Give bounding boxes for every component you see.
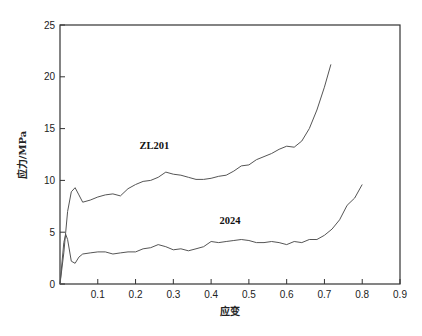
x-tick-label: 0.6 [280, 289, 294, 300]
y-tick-label: 25 [44, 20, 56, 31]
y-tick-label: 0 [49, 279, 55, 290]
x-axis-title: 应变 [220, 305, 240, 317]
x-tick-label: 0.7 [317, 289, 331, 300]
series-labels: ZL2012024 [140, 140, 242, 226]
x-tick-label: 0.4 [204, 289, 218, 300]
y-axis-title: 应力/MPa [16, 130, 28, 179]
x-tick-label: 0.9 [393, 289, 407, 300]
x-tick-label: 0.8 [355, 289, 369, 300]
x-tick-label: 0.3 [166, 289, 180, 300]
y-axis-ticks: 0510152025 [44, 20, 65, 290]
series-layer [60, 64, 362, 284]
series-label: ZL201 [140, 140, 170, 151]
series-label: 2024 [220, 215, 242, 226]
y-tick-label: 10 [44, 175, 56, 186]
plot-frame [60, 25, 400, 284]
x-tick-label: 0.2 [129, 289, 143, 300]
x-axis-ticks: 0.10.20.30.40.50.60.70.80.9 [91, 279, 408, 300]
y-tick-label: 15 [44, 123, 56, 134]
x-tick-label: 0.5 [242, 289, 256, 300]
y-tick-label: 5 [49, 227, 55, 238]
series-line-2024 [60, 185, 362, 285]
x-tick-label: 0.1 [91, 289, 105, 300]
stress-strain-chart: 0.10.20.30.40.50.60.70.80.9 0510152025 Z… [0, 0, 422, 336]
y-tick-label: 20 [44, 71, 56, 82]
series-line-zl201 [60, 64, 331, 284]
